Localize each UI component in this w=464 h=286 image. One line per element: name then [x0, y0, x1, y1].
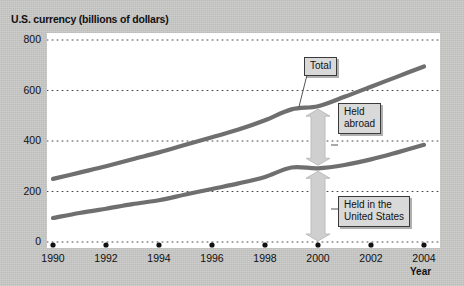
callout-total-label: Total	[310, 60, 331, 71]
callout-held-abroad-line1: Held	[344, 106, 375, 118]
callout-held-us-line2: United States	[344, 211, 404, 223]
y-tick-label: 400	[7, 134, 41, 146]
x-tick-label: 1992	[86, 252, 126, 264]
x-tick-label: 1996	[192, 252, 232, 264]
callout-held-abroad-line2: abroad	[344, 118, 375, 130]
x-tick-label: 1994	[139, 252, 179, 264]
x-tick-label: 2000	[298, 252, 338, 264]
x-tick-label: 2004	[404, 252, 444, 264]
callout-total: Total	[304, 57, 337, 76]
y-tick-label: 200	[7, 185, 41, 197]
x-tick-label: 1990	[33, 252, 73, 264]
range-arrows	[306, 109, 330, 241]
callout-held-us-line1: Held in the	[344, 199, 404, 211]
chart-title: U.S. currency (billions of dollars)	[11, 13, 169, 25]
callout-held-united-states: Held in the United States	[338, 196, 410, 227]
y-tick-label: 800	[7, 33, 41, 45]
y-tick-label: 0	[7, 235, 41, 247]
x-axis-label: Year	[410, 266, 431, 277]
x-tick-label: 1998	[245, 252, 285, 264]
x-tick-label: 2002	[351, 252, 391, 264]
callout-held-abroad: Held abroad	[338, 103, 381, 134]
y-tick-label: 600	[7, 84, 41, 96]
x-tick-dots	[50, 242, 426, 247]
